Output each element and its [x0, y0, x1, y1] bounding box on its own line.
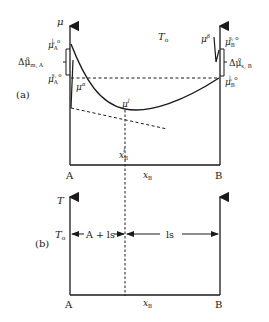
- mu-A-liquid-label: μAl, o: [48, 38, 61, 51]
- end-label-A-a: A: [65, 170, 74, 181]
- panel-a: (a) μ To μAl, o Δμm, Ao μAs, o μα μβ μBs…: [16, 16, 252, 296]
- x-axis-label-a: xB: [143, 170, 152, 181]
- mu-A-solid-label: μAs, o: [48, 72, 62, 85]
- mu-alpha-label: μα: [76, 81, 86, 92]
- panel-b: (b) T To A + ls ls A B xB: [35, 195, 222, 310]
- x-axis-label-b: xB: [143, 298, 152, 309]
- panel-a-label: (a): [16, 89, 30, 100]
- mu-B-solid-label: μBs, o: [225, 35, 239, 48]
- mu-axis-label: μ: [57, 16, 64, 27]
- end-label-A-b: A: [64, 299, 73, 310]
- end-label-B-a: B: [215, 170, 222, 181]
- tangent-line: [71, 108, 167, 129]
- T-axis-label: T: [57, 195, 65, 206]
- region-label-A-plus-ls: A + ls: [85, 229, 115, 240]
- mu-l-label: μl: [122, 98, 130, 109]
- liquid-curve: [71, 44, 219, 110]
- phase-diagram: (a) μ To μAl, o Δμm, Ao μAs, o μα μβ μBs…: [0, 0, 269, 322]
- temperature-label-b: To: [55, 229, 66, 241]
- region-label-ls: ls: [166, 229, 174, 240]
- alpha-curve: [71, 60, 73, 108]
- beta-curve: [214, 37, 219, 62]
- delta-mu-A-label: Δμm, Ao: [18, 55, 44, 68]
- delta-mu-B-label: Δμs, Bo: [229, 56, 252, 69]
- mu-B-liquid-label: μBl, o: [225, 75, 238, 88]
- end-label-B-b: B: [215, 299, 222, 310]
- temperature-label-a: To: [158, 31, 169, 43]
- xBl-label: xBl: [119, 147, 128, 161]
- mu-beta-label: μβ: [201, 33, 210, 44]
- panel-b-label: (b): [35, 238, 49, 249]
